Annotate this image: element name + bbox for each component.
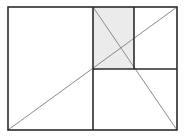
golden-rectangle-diagram [0,0,185,137]
